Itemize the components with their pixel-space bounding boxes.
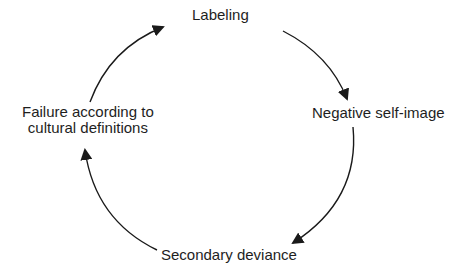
node-negative-self-image: Negative self-image — [312, 105, 445, 121]
node-failure-cultural-definitions: Failure according to cultural definition… — [22, 104, 154, 136]
arrow-secondary-deviance-to-failure — [85, 150, 157, 250]
node-secondary-deviance: Secondary deviance — [161, 247, 297, 263]
cycle-arrows — [0, 0, 463, 272]
node-failure-line-1: Failure according to — [22, 104, 154, 120]
arrow-negative-self-image-to-secondary-deviance — [293, 127, 354, 243]
arrow-labeling-to-negative-self-image — [283, 31, 347, 99]
arrow-failure-to-labeling — [90, 27, 163, 102]
node-labeling: Labeling — [192, 7, 249, 23]
node-failure-line-2: cultural definitions — [22, 120, 154, 136]
labeling-cycle-diagram: Labeling Negative self-image Secondary d… — [0, 0, 463, 272]
